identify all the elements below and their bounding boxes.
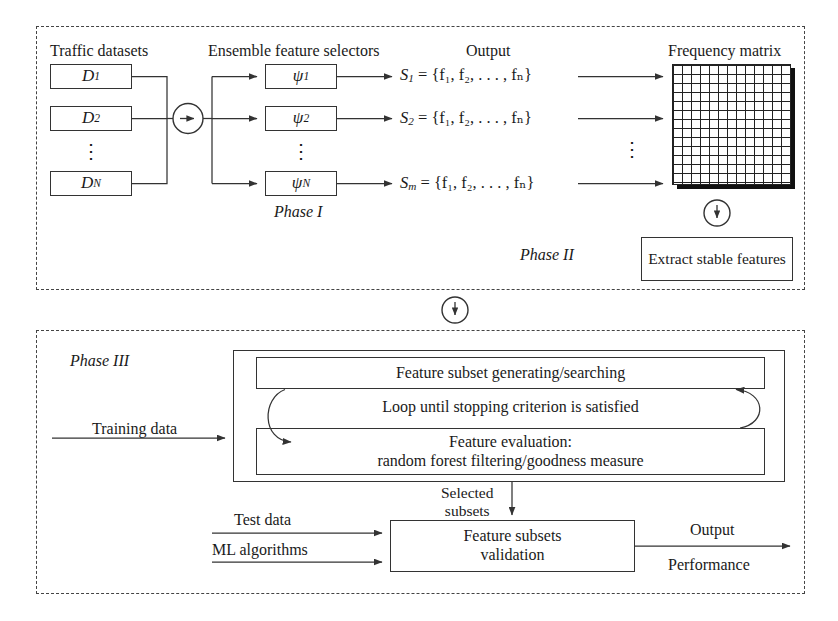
selector-vdots: ⋮ bbox=[265, 134, 337, 170]
frequency-matrix[interactable] bbox=[672, 64, 791, 185]
output-set-m: Sm = {f₁, f₂, . . . , fₙ} bbox=[400, 174, 534, 193]
feature-evaluation-box[interactable]: Feature evaluation: random forest filter… bbox=[256, 428, 765, 475]
dataset-box-1[interactable]: D1 bbox=[50, 64, 132, 89]
phase-2-label: Phase II bbox=[520, 246, 574, 264]
selector-sub: 2 bbox=[303, 112, 309, 126]
ensemble-selectors-header: Ensemble feature selectors bbox=[208, 42, 379, 60]
output-set-body: = {f₁, f₂, . . . , fₙ} bbox=[414, 65, 532, 84]
dataset-box-n[interactable]: DN bbox=[50, 171, 132, 196]
output-set-symbol: S bbox=[400, 173, 408, 192]
selector-box-1[interactable]: ψ1 bbox=[265, 64, 337, 89]
selector-label: ψ bbox=[293, 108, 304, 128]
loop-criterion-text: Loop until stopping criterion is satisfi… bbox=[256, 394, 765, 420]
validation-line1: Feature subsets bbox=[463, 527, 561, 546]
performance-label: Performance bbox=[668, 556, 750, 574]
selected-subsets-label: Selected subsets bbox=[441, 484, 494, 520]
output-set-symbol: S bbox=[400, 108, 408, 127]
frequency-matrix-header: Frequency matrix bbox=[668, 42, 781, 60]
selector-sub: N bbox=[302, 177, 310, 191]
extract-stable-features-box[interactable]: Extract stable features bbox=[641, 237, 793, 281]
selector-label: ψ bbox=[292, 173, 303, 193]
output-header: Output bbox=[466, 42, 510, 60]
dataset-sub: 2 bbox=[94, 112, 100, 126]
ml-algorithms-label: ML algorithms bbox=[212, 541, 308, 559]
validation-line2: validation bbox=[481, 546, 545, 565]
output-set-body: = {f₁, f₂, . . . , fₙ} bbox=[414, 108, 532, 127]
feature-evaluation-line1: Feature evaluation: bbox=[449, 433, 572, 452]
extract-stable-features-label: Extract stable features bbox=[648, 250, 786, 268]
traffic-datasets-header: Traffic datasets bbox=[50, 42, 148, 60]
phase-3-label: Phase III bbox=[70, 352, 129, 370]
dataset-sub: 1 bbox=[94, 70, 100, 84]
dataset-label: D bbox=[81, 173, 93, 193]
matrix-feed-vdots: ⋮ bbox=[620, 132, 644, 168]
training-data-label: Training data bbox=[92, 420, 177, 438]
feature-evaluation-line2: random forest filtering/goodness measure bbox=[377, 452, 643, 471]
output-set-body: = {f₁, f₂, . . . , fₙ} bbox=[416, 173, 534, 192]
dataset-box-2[interactable]: D2 bbox=[50, 106, 132, 131]
feature-subset-search-label: Feature subset generating/searching bbox=[396, 364, 625, 383]
figure-canvas: Traffic datasets Ensemble feature select… bbox=[0, 0, 838, 621]
selector-sub: 1 bbox=[303, 70, 309, 84]
test-data-label: Test data bbox=[234, 511, 291, 529]
selector-box-n[interactable]: ψN bbox=[265, 171, 337, 196]
output-set-1: S1 = {f₁, f₂, . . . , fₙ} bbox=[400, 66, 532, 85]
output-label: Output bbox=[690, 521, 734, 539]
dataset-sub: N bbox=[93, 177, 101, 191]
dataset-label: D bbox=[82, 108, 94, 128]
selected-subsets-line1: Selected bbox=[441, 484, 494, 502]
output-set-symbol: S bbox=[400, 65, 408, 84]
dataset-label: D bbox=[82, 66, 94, 86]
feature-subsets-validation-box[interactable]: Feature subsets validation bbox=[390, 520, 635, 572]
feature-subset-search-box[interactable]: Feature subset generating/searching bbox=[256, 357, 765, 389]
selector-label: ψ bbox=[293, 66, 304, 86]
phase-1-label: Phase I bbox=[274, 203, 322, 221]
output-set-2: S2 = {f₁, f₂, . . . , fₙ} bbox=[400, 109, 532, 128]
selector-box-2[interactable]: ψ2 bbox=[265, 106, 337, 131]
dataset-vdots: ⋮ bbox=[50, 134, 132, 170]
selected-subsets-line2: subsets bbox=[441, 502, 494, 520]
